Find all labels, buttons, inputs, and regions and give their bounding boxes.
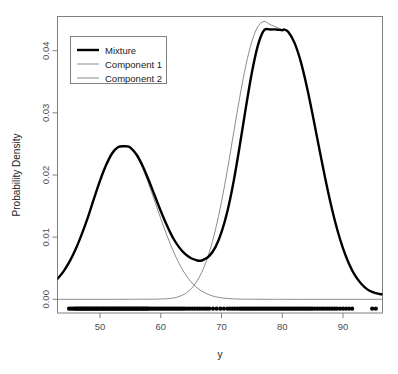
x-tick-label: 80 — [277, 321, 288, 332]
rug-point — [222, 307, 226, 311]
chart-figure: 5060708090 0.000.010.020.030.04 y Probab… — [0, 0, 398, 374]
rug-point — [350, 307, 354, 311]
rug-point — [215, 307, 219, 311]
y-axis-title: Probability Density — [11, 134, 22, 217]
x-axis-title: y — [218, 349, 223, 360]
rug-point — [370, 307, 374, 311]
x-tick-label: 90 — [338, 321, 349, 332]
plot-background — [0, 0, 398, 374]
y-tick-label: 0.04 — [40, 41, 51, 60]
y-tick-label: 0.03 — [40, 104, 51, 123]
x-tick-label: 60 — [155, 321, 166, 332]
mixture-density-plot: 5060708090 0.000.010.020.030.04 y Probab… — [0, 0, 398, 374]
rug-point — [374, 307, 378, 311]
legend-label-component-2: Component 2 — [105, 73, 162, 84]
legend-label-component-1: Component 1 — [105, 59, 162, 70]
rug-point — [218, 307, 222, 311]
y-tick-label: 0.02 — [40, 166, 51, 185]
y-tick-label: 0.01 — [40, 228, 51, 247]
y-tick-label: 0.00 — [40, 290, 51, 309]
x-tick-label: 70 — [216, 321, 227, 332]
rug-point — [211, 307, 215, 311]
legend-label-mixture: Mixture — [105, 45, 136, 56]
x-tick-label: 50 — [95, 321, 106, 332]
rug-point — [207, 307, 211, 311]
